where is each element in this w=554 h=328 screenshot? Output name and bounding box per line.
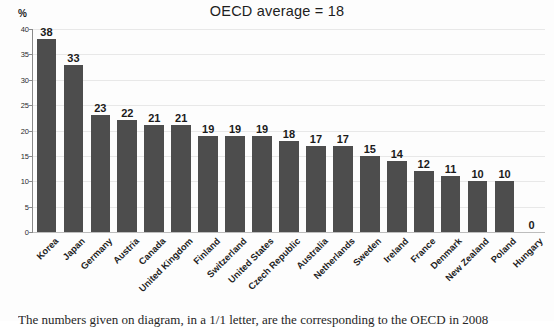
x-axis-label-slot: Sweden bbox=[356, 234, 383, 314]
gridline bbox=[33, 232, 545, 233]
bar-item[interactable]: 10 bbox=[491, 29, 518, 232]
chart-title: OECD average = 18 bbox=[0, 3, 554, 19]
bar-value-label: 38 bbox=[33, 26, 60, 38]
bar[interactable] bbox=[306, 146, 326, 232]
y-axis-tick-label: 30 bbox=[5, 75, 29, 84]
x-axis-category-label: Ireland bbox=[382, 236, 411, 265]
bar-value-label: 21 bbox=[168, 112, 195, 124]
plot-area: 3833232221211919191817171514121110100 bbox=[33, 29, 545, 232]
y-axis-tick-label: 0 bbox=[5, 228, 29, 237]
bar-value-label: 11 bbox=[437, 163, 464, 175]
bar-item[interactable]: 17 bbox=[302, 29, 329, 232]
bar-value-label: 17 bbox=[329, 133, 356, 145]
bar-item[interactable]: 23 bbox=[87, 29, 114, 232]
bar-value-label: 0 bbox=[518, 219, 545, 231]
bar-item[interactable]: 17 bbox=[329, 29, 356, 232]
y-axis-unit-label: % bbox=[18, 8, 27, 19]
bar[interactable] bbox=[441, 176, 461, 232]
bar-value-label: 14 bbox=[383, 148, 410, 160]
bar[interactable] bbox=[144, 125, 164, 232]
bar-item[interactable]: 38 bbox=[33, 29, 60, 232]
bar-value-label: 15 bbox=[356, 143, 383, 155]
bar[interactable] bbox=[117, 120, 137, 232]
bar[interactable] bbox=[252, 136, 272, 232]
x-axis-label-slot: United Kingdom bbox=[168, 234, 195, 314]
x-axis-label-slot: Korea bbox=[33, 234, 60, 314]
x-axis-label-slot: Japan bbox=[60, 234, 87, 314]
bar-item[interactable]: 21 bbox=[141, 29, 168, 232]
bar-value-label: 10 bbox=[491, 168, 518, 180]
y-axis-tick-label: 10 bbox=[5, 177, 29, 186]
bar-item[interactable]: 22 bbox=[114, 29, 141, 232]
x-axis-label-slot: Netherlands bbox=[329, 234, 356, 314]
bar-item[interactable]: 33 bbox=[60, 29, 87, 232]
x-axis-label-slot: Austria bbox=[114, 234, 141, 314]
bar-item[interactable]: 10 bbox=[464, 29, 491, 232]
y-axis-tick-label: 35 bbox=[5, 50, 29, 59]
bar[interactable] bbox=[64, 65, 84, 232]
bar-item[interactable]: 0 bbox=[518, 29, 545, 232]
bar-value-label: 19 bbox=[222, 123, 249, 135]
bar-value-label: 23 bbox=[87, 102, 114, 114]
x-axis-category-label: Japan bbox=[61, 236, 87, 262]
bar-item[interactable]: 14 bbox=[383, 29, 410, 232]
bar-value-label: 33 bbox=[60, 52, 87, 64]
bar-value-label: 22 bbox=[114, 107, 141, 119]
bar-item[interactable]: 12 bbox=[410, 29, 437, 232]
bar[interactable] bbox=[91, 115, 111, 232]
bar-item[interactable]: 19 bbox=[222, 29, 249, 232]
bar-value-label: 19 bbox=[249, 123, 276, 135]
y-axis-tick-labels: 0510152025303540 bbox=[0, 29, 29, 232]
bar-item[interactable]: 18 bbox=[276, 29, 303, 232]
bar-item[interactable]: 15 bbox=[356, 29, 383, 232]
bar-value-label: 17 bbox=[302, 133, 329, 145]
bar-item[interactable]: 19 bbox=[249, 29, 276, 232]
x-axis-label-slot: France bbox=[410, 234, 437, 314]
bar-item[interactable]: 11 bbox=[437, 29, 464, 232]
figure-caption: The numbers given on diagram, in a 1/1 l… bbox=[18, 312, 542, 328]
bar-value-label: 10 bbox=[464, 168, 491, 180]
bar-item[interactable]: 19 bbox=[195, 29, 222, 232]
bar[interactable] bbox=[279, 141, 299, 232]
x-axis-label-slot: Ireland bbox=[383, 234, 410, 314]
bar[interactable] bbox=[468, 181, 488, 232]
bar[interactable] bbox=[37, 39, 57, 232]
bar[interactable] bbox=[225, 136, 245, 232]
bar[interactable] bbox=[198, 136, 218, 232]
bar[interactable] bbox=[414, 171, 434, 232]
y-axis-tick-label: 40 bbox=[5, 25, 29, 34]
x-axis-label-slot: Hungary bbox=[518, 234, 545, 314]
bar-item[interactable]: 21 bbox=[168, 29, 195, 232]
bar[interactable] bbox=[360, 156, 380, 232]
x-axis-label-slot: Germany bbox=[87, 234, 114, 314]
x-axis-category-labels: KoreaJapanGermanyAustriaCanadaUnited Kin… bbox=[33, 234, 545, 314]
bar-value-label: 19 bbox=[195, 123, 222, 135]
y-axis-tick-label: 5 bbox=[5, 202, 29, 211]
y-axis-tick-label: 15 bbox=[5, 151, 29, 160]
x-axis-label-slot: Czech Republic bbox=[276, 234, 303, 314]
y-axis-tick-label: 20 bbox=[5, 126, 29, 135]
x-axis-label-slot: Poland bbox=[491, 234, 518, 314]
bar-value-label: 18 bbox=[276, 128, 303, 140]
x-axis-category-label: Austria bbox=[111, 236, 141, 266]
x-axis-label-slot: New Zealand bbox=[464, 234, 491, 314]
x-axis-category-label: Sweden bbox=[351, 236, 383, 268]
x-axis-category-label: Korea bbox=[34, 236, 60, 262]
bar[interactable] bbox=[333, 146, 353, 232]
y-axis-tick-label: 25 bbox=[5, 101, 29, 110]
bar-value-label: 21 bbox=[141, 112, 168, 124]
bar-value-label: 12 bbox=[410, 158, 437, 170]
bar[interactable] bbox=[495, 181, 515, 232]
bar[interactable] bbox=[171, 125, 191, 232]
bar[interactable] bbox=[387, 161, 407, 232]
